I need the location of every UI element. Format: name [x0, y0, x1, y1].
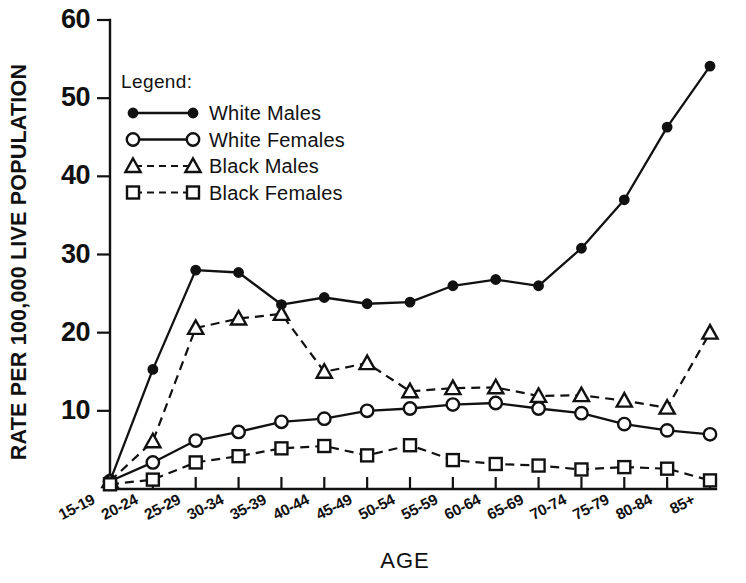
data-point: [360, 356, 375, 370]
data-point: [618, 418, 630, 430]
data-point: [234, 268, 243, 277]
x-tick-label: 55-59: [399, 490, 441, 523]
legend-marker: [187, 133, 199, 145]
data-point: [274, 306, 289, 320]
x-axis-tick-labels: 15-1920-2425-2930-3435-3940-4445-4950-54…: [56, 490, 698, 523]
legend-entry-label: Black Males: [209, 155, 319, 177]
x-tick-label: 35-39: [227, 490, 269, 523]
data-point: [104, 478, 116, 490]
y-tick-label: 30: [61, 239, 90, 269]
series-layer: [102, 62, 717, 491]
data-point: [661, 463, 673, 475]
legend-marker: [127, 133, 139, 145]
legend-entry: Black Females: [127, 182, 343, 204]
data-point: [704, 428, 716, 440]
legend-entries: White MalesWhite FemalesBlack MalesBlack…: [125, 102, 345, 204]
data-point: [448, 281, 457, 290]
data-point: [705, 62, 714, 71]
data-point: [404, 439, 416, 451]
data-point: [361, 449, 373, 461]
x-axis-ticks: [110, 477, 710, 489]
data-point: [147, 474, 159, 486]
legend-marker: [128, 108, 137, 117]
x-tick-label: 20-24: [99, 490, 141, 523]
x-tick-label: 15-19: [56, 490, 98, 523]
legend-marker: [187, 187, 199, 199]
data-point: [661, 424, 673, 436]
data-point: [320, 293, 329, 302]
data-point: [148, 365, 157, 374]
y-axis-title: RATE PER 100,000 LIVE POPULATION: [7, 64, 31, 460]
legend-entry-label: Black Females: [209, 182, 343, 204]
line-chart: RATE PER 100,000 LIVE POPULATION 1020304…: [0, 0, 746, 583]
data-point: [190, 456, 202, 468]
data-point: [147, 456, 159, 468]
y-axis-ticks: [97, 20, 110, 411]
data-point: [190, 434, 202, 446]
data-point: [618, 461, 630, 473]
data-point: [447, 398, 459, 410]
legend-marker: [188, 108, 197, 117]
y-tick-label: 40: [61, 160, 90, 190]
y-axis-tick-labels: 102030405060: [61, 4, 90, 425]
data-point: [145, 434, 160, 448]
chart-container: RATE PER 100,000 LIVE POPULATION 1020304…: [0, 0, 746, 583]
legend-entry-label: White Females: [209, 129, 345, 151]
x-tick-label: 30-34: [184, 490, 226, 523]
data-point: [404, 402, 416, 414]
data-point: [275, 416, 287, 428]
data-point: [533, 460, 545, 472]
data-point: [577, 244, 586, 253]
x-tick-label: 85+: [667, 490, 698, 517]
y-tick-label: 60: [61, 4, 90, 34]
data-point: [232, 426, 244, 438]
data-point: [663, 122, 672, 131]
x-tick-label: 40-44: [270, 490, 312, 523]
data-point: [532, 402, 544, 414]
data-point: [575, 407, 587, 419]
legend-entry-label: White Males: [209, 102, 321, 124]
x-tick-label: 70-74: [527, 490, 569, 523]
legend-entry: White Females: [127, 129, 345, 151]
data-point: [534, 281, 543, 290]
data-point: [620, 195, 629, 204]
data-point: [363, 299, 372, 308]
data-point: [660, 400, 675, 414]
data-point: [490, 458, 502, 470]
y-tick-label: 10: [61, 395, 90, 425]
x-tick-label: 80-84: [613, 490, 655, 523]
data-point: [275, 442, 287, 454]
chart-legend: Legend: White MalesWhite FemalesBlack Ma…: [121, 71, 345, 204]
data-point: [318, 412, 330, 424]
x-tick-label: 60-64: [441, 490, 483, 523]
data-point: [491, 275, 500, 284]
data-point: [617, 393, 632, 407]
data-point: [191, 266, 200, 275]
data-point: [361, 405, 373, 417]
x-tick-label: 65-69: [484, 490, 526, 523]
data-point: [233, 450, 245, 462]
x-axis-title: AGE: [380, 548, 429, 573]
x-tick-label: 50-54: [356, 490, 398, 523]
legend-title: Legend:: [121, 71, 192, 92]
data-point: [318, 440, 330, 452]
data-point: [405, 298, 414, 307]
data-point: [575, 463, 587, 475]
x-tick-label: 25-29: [141, 490, 183, 523]
data-point: [447, 454, 459, 466]
data-point: [704, 474, 716, 486]
y-tick-label: 50: [61, 82, 90, 112]
legend-entry: White Males: [128, 102, 321, 124]
data-point: [490, 397, 502, 409]
data-point: [702, 325, 717, 339]
x-tick-label: 45-49: [313, 490, 355, 523]
x-tick-label: 75-79: [570, 490, 612, 523]
y-tick-label: 20: [61, 317, 90, 347]
legend-entry: Black Males: [125, 155, 319, 177]
legend-marker: [127, 187, 139, 199]
